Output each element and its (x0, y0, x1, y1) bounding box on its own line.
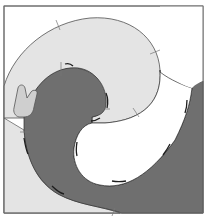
pattern-canvas (0, 0, 207, 223)
pattern-diagram (0, 0, 207, 223)
